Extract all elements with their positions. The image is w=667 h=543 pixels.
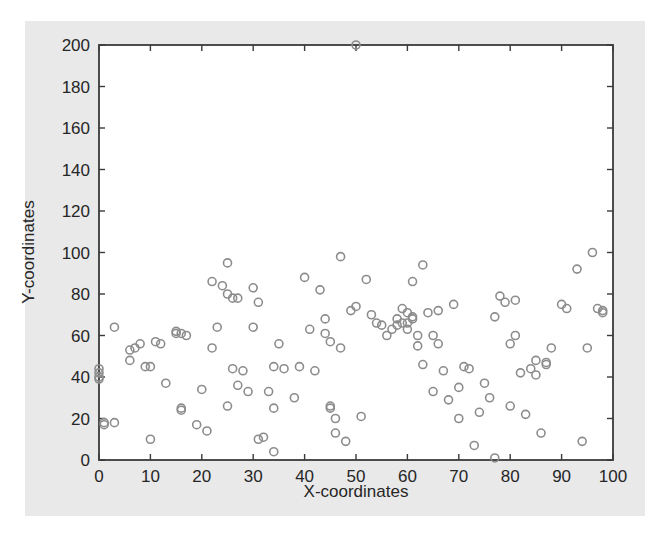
y-tick-label: 80 bbox=[71, 285, 90, 304]
y-tick-label: 60 bbox=[71, 327, 90, 346]
x-axis-title: X-coordinates bbox=[304, 482, 409, 501]
x-tick-label: 80 bbox=[501, 467, 520, 486]
y-tick-label: 160 bbox=[62, 119, 90, 138]
y-tick-label: 100 bbox=[62, 244, 90, 263]
y-axis-title: Y-coordinates bbox=[19, 200, 38, 303]
x-tick-label: 100 bbox=[599, 467, 627, 486]
x-tick-label: 0 bbox=[94, 467, 103, 486]
y-tick-label: 40 bbox=[71, 368, 90, 387]
scatter-plot: 0102030405060708090100 02040608010012014… bbox=[0, 0, 667, 543]
y-tick-label: 140 bbox=[62, 161, 90, 180]
y-tick-label: 180 bbox=[62, 78, 90, 97]
y-axis-tick-labels: 020406080100120140160180200 bbox=[62, 36, 90, 470]
y-tick-label: 200 bbox=[62, 36, 90, 55]
y-tick-label: 20 bbox=[71, 410, 90, 429]
x-tick-label: 20 bbox=[192, 467, 211, 486]
axes-frame bbox=[99, 45, 613, 460]
x-tick-label: 90 bbox=[552, 467, 571, 486]
x-tick-label: 10 bbox=[141, 467, 160, 486]
y-tick-label: 0 bbox=[81, 451, 90, 470]
x-tick-label: 30 bbox=[244, 467, 263, 486]
y-tick-label: 120 bbox=[62, 202, 90, 221]
x-tick-label: 70 bbox=[449, 467, 468, 486]
